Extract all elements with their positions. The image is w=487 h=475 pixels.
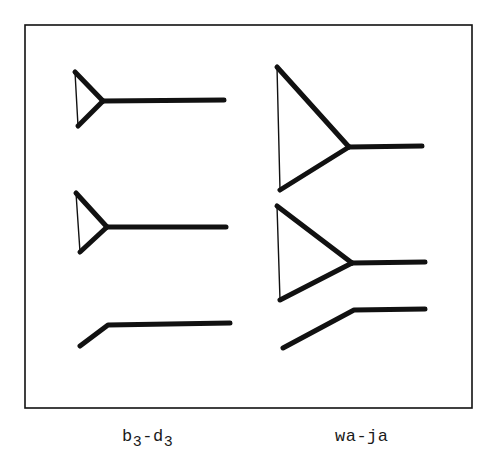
right-column-label: wa-ja (335, 427, 389, 446)
diagram-figure (0, 0, 487, 475)
triangle-back-edge (277, 67, 280, 190)
triangle-upper-edge (277, 67, 349, 147)
triangle-lower-edge (280, 147, 349, 190)
right-glyph-1-triangle (277, 67, 422, 190)
right-glyph-3-bent-line (283, 309, 425, 348)
stem-line (103, 100, 224, 101)
diagram-frame (25, 25, 472, 408)
triangle-lower-edge (78, 101, 103, 126)
triangle-upper-edge (277, 206, 352, 263)
stem-line (352, 262, 425, 263)
left-glyph-3-bent-line (80, 323, 230, 346)
triangle-back-edge (277, 206, 280, 300)
triangle-lower-edge (80, 227, 107, 252)
bent-stroke (283, 309, 425, 348)
label-subscript: 3 (133, 434, 143, 451)
label-subscript: 3 (164, 434, 174, 451)
right-glyph-2-triangle (277, 206, 425, 300)
label-separator: - (142, 427, 153, 446)
triangle-back-edge (76, 193, 80, 252)
triangle-upper-edge (75, 72, 103, 101)
bent-stroke (80, 323, 230, 346)
label-base-d: d (153, 427, 164, 446)
triangle-back-edge (75, 72, 78, 126)
stem-line (349, 146, 422, 147)
left-column-label: b3-d3 (122, 427, 173, 446)
left-glyph-1-triangle (75, 72, 224, 126)
triangle-upper-edge (76, 193, 107, 227)
triangle-lower-edge (280, 263, 352, 300)
left-column-glyphs (75, 72, 230, 346)
label-base-b: b (122, 427, 133, 446)
right-column-glyphs (277, 67, 425, 348)
left-glyph-2-triangle (76, 193, 226, 252)
